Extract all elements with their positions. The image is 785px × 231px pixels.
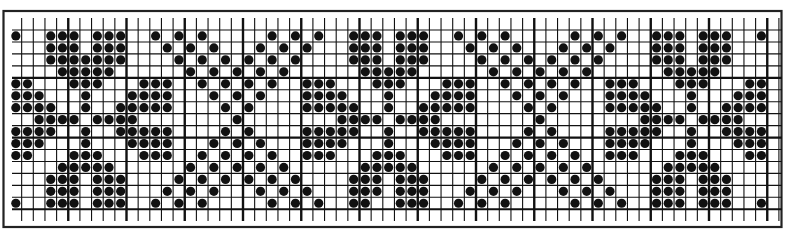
stitch-dot — [58, 187, 67, 196]
stitch-dot — [139, 103, 148, 112]
stitch-dot — [93, 115, 102, 124]
stitch-dot — [104, 199, 113, 208]
stitch-dot — [268, 199, 277, 208]
stitch-dot — [244, 55, 253, 64]
stitch-dot — [570, 199, 579, 208]
stitch-dot — [512, 163, 521, 172]
stitch-dot — [221, 127, 230, 136]
stitch-dot — [652, 43, 661, 52]
stitch-dot — [58, 175, 67, 184]
stitch-dot — [664, 115, 673, 124]
stitch-dot — [617, 103, 626, 112]
stitch-dot — [570, 55, 579, 64]
stitch-dot — [559, 67, 568, 76]
stitch-dot — [58, 55, 67, 64]
stitch-dot — [186, 67, 195, 76]
stitch-dot — [314, 91, 323, 100]
stitch-dot — [93, 31, 102, 40]
stitch-dot — [745, 127, 754, 136]
stitch-dot — [722, 31, 731, 40]
chart-grid — [0, 0, 785, 231]
stitch-dot — [675, 199, 684, 208]
stitch-dot — [372, 175, 381, 184]
stitch-dot — [349, 55, 358, 64]
stitch-dot — [466, 91, 475, 100]
stitch-dot — [209, 139, 218, 148]
stitch-dot — [605, 43, 614, 52]
stitch-dot — [361, 31, 370, 40]
stitch-dot — [559, 43, 568, 52]
stitch-dot — [524, 127, 533, 136]
stitch-dot — [302, 127, 311, 136]
stitch-dot — [454, 139, 463, 148]
stitch-dot — [710, 67, 719, 76]
stitch-dot — [442, 139, 451, 148]
stitch-dot — [699, 67, 708, 76]
stitch-dot — [652, 103, 661, 112]
stitch-dot — [151, 31, 160, 40]
stitch-dot — [46, 31, 55, 40]
stitch-dot — [372, 79, 381, 88]
stitch-dot — [547, 151, 556, 160]
stitch-dot — [652, 55, 661, 64]
stitch-dot — [652, 31, 661, 40]
stitch-dot — [337, 127, 346, 136]
stitch-dot — [81, 55, 90, 64]
stitch-dot — [163, 151, 172, 160]
stitch-dot — [46, 199, 55, 208]
stitch-dot — [675, 163, 684, 172]
stitch-dot — [477, 175, 486, 184]
stitch-dot — [46, 175, 55, 184]
stitch-dot — [442, 103, 451, 112]
stitch-dot — [302, 103, 311, 112]
stitch-dot — [302, 187, 311, 196]
stitch-dot — [58, 115, 67, 124]
stitch-dot — [81, 67, 90, 76]
stitch-dot — [337, 139, 346, 148]
stitch-dot — [722, 187, 731, 196]
stitch-dot — [431, 127, 440, 136]
stitch-dot — [617, 139, 626, 148]
stitch-dot — [524, 79, 533, 88]
stitch-dot — [675, 115, 684, 124]
stitch-dot — [11, 31, 20, 40]
stitch-dot — [11, 91, 20, 100]
stitch-dot — [314, 103, 323, 112]
stitch-dot — [46, 103, 55, 112]
stitch-dot — [454, 91, 463, 100]
stitch-dot — [384, 67, 393, 76]
stitch-dot — [69, 43, 78, 52]
stitch-dot — [186, 43, 195, 52]
stitch-dot — [547, 55, 556, 64]
stitch-dot — [687, 67, 696, 76]
stitch-dot — [675, 67, 684, 76]
stitch-dot — [209, 163, 218, 172]
stitch-dot — [524, 103, 533, 112]
stitch-dot — [139, 79, 148, 88]
stitch-dot — [116, 55, 125, 64]
stitch-dot — [454, 31, 463, 40]
stitch-dot — [384, 151, 393, 160]
stitch-dot — [605, 151, 614, 160]
stitch-dot — [46, 187, 55, 196]
stitch-dot — [734, 139, 743, 148]
stitch-dot — [104, 31, 113, 40]
stitch-dot — [128, 103, 137, 112]
stitch-dot — [594, 199, 603, 208]
stitch-dot — [268, 151, 277, 160]
stitch-dot — [757, 127, 766, 136]
stitch-dot — [652, 187, 661, 196]
stitch-dot — [594, 175, 603, 184]
stitch-dot — [11, 151, 20, 160]
stitch-dot — [675, 79, 684, 88]
stitch-dot — [384, 103, 393, 112]
stitch-dot — [687, 103, 696, 112]
stitch-dot — [116, 103, 125, 112]
stitch-dot — [419, 55, 428, 64]
stitch-dot — [489, 187, 498, 196]
stitch-dot — [209, 67, 218, 76]
stitch-dot — [501, 55, 510, 64]
stitch-dot — [11, 199, 20, 208]
stitch-dot — [652, 127, 661, 136]
stitch-dot — [605, 187, 614, 196]
